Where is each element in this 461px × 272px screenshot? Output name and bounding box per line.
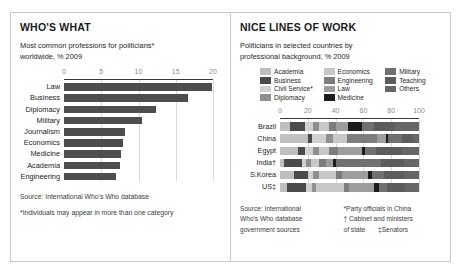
country-label: Egypt [258, 146, 276, 156]
country-label: Brazil [258, 122, 276, 132]
right-x-tick-20: 20 [304, 107, 312, 114]
stack-segment [372, 171, 385, 179]
legend-item: Others [385, 85, 441, 92]
stack-segment [362, 122, 375, 130]
right-source-line-2: Who's Who database [240, 214, 336, 225]
legend-item: Civil Service* [260, 85, 324, 92]
stack-segment [280, 183, 287, 191]
stack-segment [405, 183, 419, 191]
left-subtitle-line-1: Most common professions for politicians* [20, 40, 221, 51]
left-gridline-20 [213, 80, 214, 181]
stack-segment [333, 134, 347, 142]
legend-swatch [385, 77, 396, 84]
stack-segment [342, 171, 367, 179]
right-x-tick-40: 40 [332, 107, 340, 114]
profession-bar [64, 139, 123, 147]
profession-bar-row: Business [64, 93, 213, 103]
right-x-tick-80: 80 [387, 107, 395, 114]
panel-nice-lines-of-work: NICE LINES OF WORK Politicians in select… [230, 12, 451, 262]
profession-label: Law [46, 82, 60, 92]
right-subtitle-line-2: professional background, % 2009 [240, 51, 441, 62]
stack-segment [404, 159, 419, 167]
right-gridline-100 [419, 119, 420, 192]
stack-segment [312, 134, 326, 142]
left-panel-title: WHO'S WHAT [20, 21, 221, 33]
country-stacked-bar [280, 147, 419, 155]
country-bar-row: China [280, 134, 419, 144]
country-stacked-bar [280, 134, 419, 142]
legend-column: EconomicsEngineeringLawMedicine [324, 68, 386, 101]
stack-segment [305, 122, 313, 130]
stack-segment [326, 134, 333, 142]
stack-segment [284, 159, 302, 167]
stack-segment [349, 183, 374, 191]
stack-segment [384, 171, 403, 179]
country-stacked-bar [280, 122, 419, 130]
legend-swatch [324, 77, 335, 84]
legend-label: Academia [274, 68, 303, 75]
stack-segment [290, 122, 305, 130]
profession-bar [64, 162, 120, 170]
legend-label: Others [399, 85, 419, 92]
legend-item: Business [260, 77, 324, 84]
legend-item: Engineering [324, 77, 386, 84]
left-footnote-text: *Individuals may appear in more than one… [20, 208, 221, 219]
right-chart-plot-area: BrazilChinaEgyptIndia†S.KoreaUS‡ [280, 118, 419, 192]
legend-item: Academia [260, 68, 324, 75]
stack-segment [326, 159, 333, 167]
stack-segment [377, 134, 385, 142]
profession-label: Medicine [30, 149, 60, 159]
left-x-tick-0: 0 [62, 68, 66, 75]
stack-segment [381, 159, 403, 167]
right-source-line-1: Source: International [240, 204, 336, 215]
footnote-line-3-text: of state [344, 226, 366, 233]
stack-segment [316, 183, 344, 191]
profession-bar-row: Academia [64, 161, 213, 171]
country-stacked-bar [280, 183, 419, 191]
stack-segment [365, 147, 376, 155]
legend-swatch [324, 86, 335, 93]
left-x-tick-20: 20 [209, 68, 217, 75]
footnote-line-1: *Party officials in China [344, 204, 441, 215]
right-chart-x-axis: 020406080100 [280, 107, 419, 118]
profession-label: Economics [24, 138, 60, 148]
professions-bar-chart: 05101520 LawBusinessDiplomacyMilitaryJou… [20, 68, 221, 183]
stack-segment [338, 147, 362, 155]
left-source-text: Source: International Who's Who database [20, 192, 221, 203]
legend-label: Diplomacy [274, 94, 305, 101]
stack-segment [387, 183, 405, 191]
stack-segment [394, 122, 419, 130]
country-label: India† [256, 158, 276, 168]
stack-segment [336, 171, 343, 179]
right-source-block: Source: International Who's Who database… [240, 204, 441, 236]
legend-label: Military [399, 68, 420, 75]
right-source-line-3: government sources [240, 225, 336, 236]
profession-label: Diplomacy [26, 105, 61, 115]
legend-swatch [324, 68, 335, 75]
infographic-root: WHO'S WHAT Most common professions for p… [0, 0, 461, 272]
left-x-tick-5: 5 [99, 68, 103, 75]
left-x-tick-15: 15 [172, 68, 180, 75]
stack-segment [287, 183, 306, 191]
country-label: China [257, 134, 276, 144]
left-panel-subtitle: Most common professions for politicians*… [20, 40, 221, 62]
countries-stacked-chart: 020406080100 BrazilChinaEgyptIndia†S.Kor… [240, 107, 441, 195]
stack-segment [336, 159, 382, 167]
right-x-tick-0: 0 [278, 107, 282, 114]
legend-swatch [260, 94, 271, 101]
right-subtitle-line-1: Politicians in selected countries by [240, 40, 441, 51]
stack-segment [298, 147, 305, 155]
right-panel-title: NICE LINES OF WORK [240, 21, 441, 33]
country-label: US‡ [262, 182, 276, 192]
stack-segment [311, 159, 319, 167]
legend-label: Civil Service* [274, 85, 313, 92]
profession-bar [64, 117, 142, 125]
legend-item: Teaching [385, 77, 441, 84]
left-subtitle-line-2: worldwide, % 2009 [20, 51, 221, 62]
stack-segment [374, 122, 393, 130]
profession-bar [64, 106, 156, 114]
legend-item: Medicine [324, 94, 386, 101]
legend-swatch [260, 68, 271, 75]
legend-swatch [260, 77, 271, 84]
profession-bar [64, 83, 212, 91]
